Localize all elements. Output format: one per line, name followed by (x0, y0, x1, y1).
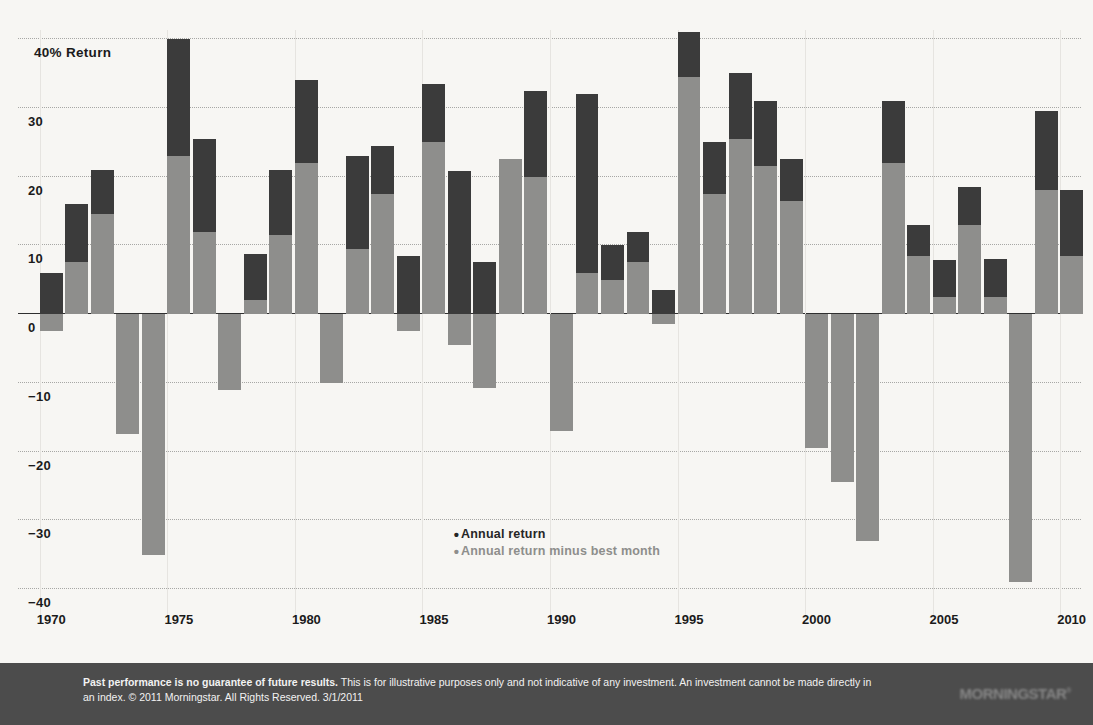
bar-annual-return-minus-best-month (1009, 314, 1032, 582)
bar-annual-return (652, 290, 675, 314)
bar-annual-return-minus-best-month (473, 314, 496, 388)
bar-annual-return (397, 256, 420, 314)
legend-marker-dot-icon: • (452, 546, 461, 558)
x-tick-label: 1995 (675, 612, 704, 627)
bar-annual-return-minus-best-month (448, 314, 471, 345)
bar-column (780, 0, 803, 640)
bar-annual-return-minus-best-month (142, 314, 165, 555)
legend-marker-dot-icon: • (452, 529, 461, 541)
bar-annual-return-minus-best-month (371, 194, 394, 314)
morningstar-logo: MORNINGSTAR® (960, 685, 1071, 702)
x-tick-label: 1990 (547, 612, 576, 627)
bar-annual-return (40, 273, 63, 314)
bar-annual-return-minus-best-month (754, 166, 777, 314)
bar-column (729, 0, 752, 640)
bar-annual-return-minus-best-month (958, 225, 981, 314)
bar-annual-return-minus-best-month (984, 297, 1007, 314)
bar-column (1035, 0, 1058, 640)
bar-column (91, 0, 114, 640)
bar-annual-return-minus-best-month (397, 314, 420, 331)
bar-annual-return-minus-best-month (729, 139, 752, 314)
bar-column (116, 0, 139, 640)
bar-column (678, 0, 701, 640)
bar-column (856, 0, 879, 640)
bar-annual-return-minus-best-month (499, 159, 522, 314)
bar-annual-return-minus-best-month (550, 314, 573, 431)
bar-column (218, 0, 241, 640)
chart-legend: •Annual return •Annual return minus best… (452, 526, 660, 560)
bar-annual-return-minus-best-month (856, 314, 879, 541)
legend-label: Annual return minus best month (461, 544, 660, 558)
bar-column (1009, 0, 1032, 640)
disclaimer-text: Past performance is no guarantee of futu… (83, 675, 873, 705)
bar-column (958, 0, 981, 640)
bar-annual-return-minus-best-month (422, 142, 445, 314)
bar-annual-return-minus-best-month (218, 314, 241, 390)
bar-annual-return-minus-best-month (91, 214, 114, 314)
bar-column (933, 0, 956, 640)
legend-item-annual-return-minus-best-month: •Annual return minus best month (452, 543, 660, 560)
bar-annual-return (448, 171, 471, 314)
bar-annual-return-minus-best-month (244, 300, 267, 314)
bar-annual-return-minus-best-month (576, 273, 599, 314)
bar-column (703, 0, 726, 640)
bar-column (142, 0, 165, 640)
bar-annual-return-minus-best-month (831, 314, 854, 482)
bar-column (40, 0, 63, 640)
bar-column (882, 0, 905, 640)
bar-column (193, 0, 216, 640)
chart-figure: 40% Return3020100−10−20−30−40 1970197519… (0, 0, 1093, 725)
x-tick-label: 1980 (292, 612, 321, 627)
bar-annual-return-minus-best-month (703, 194, 726, 314)
bar-column (422, 0, 445, 640)
bar-column (65, 0, 88, 640)
bar-annual-return-minus-best-month (40, 314, 63, 331)
x-tick-label: 1975 (164, 612, 193, 627)
morningstar-wordmark: MORNINGSTAR (960, 685, 1067, 702)
bar-annual-return-minus-best-month (601, 280, 624, 314)
disclaimer-bold-lead: Past performance is no guarantee of futu… (83, 676, 338, 688)
bar-annual-return-minus-best-month (627, 262, 650, 314)
bar-annual-return-minus-best-month (805, 314, 828, 448)
bar-annual-return-minus-best-month (167, 156, 190, 314)
legend-label: Annual return (461, 527, 546, 541)
x-tick-label: 2000 (802, 612, 831, 627)
legend-item-annual-return: •Annual return (452, 526, 660, 543)
registered-trademark-icon: ® (1066, 687, 1071, 694)
x-tick-label: 2010 (1057, 612, 1086, 627)
bar-column (371, 0, 394, 640)
bar-column (295, 0, 318, 640)
bar-annual-return-minus-best-month (1060, 256, 1083, 314)
bar-column (244, 0, 267, 640)
bar-column (167, 0, 190, 640)
bar-annual-return-minus-best-month (116, 314, 139, 434)
bar-annual-return-minus-best-month (933, 297, 956, 314)
bar-column (346, 0, 369, 640)
bar-column (805, 0, 828, 640)
bar-annual-return-minus-best-month (882, 163, 905, 314)
bar-column (320, 0, 343, 640)
footer-disclaimer-bar: Past performance is no guarantee of futu… (0, 663, 1093, 725)
bar-column (754, 0, 777, 640)
bar-annual-return-minus-best-month (652, 314, 675, 324)
bar-annual-return-minus-best-month (1035, 190, 1058, 314)
bar-annual-return-minus-best-month (320, 314, 343, 383)
bar-annual-return-minus-best-month (193, 232, 216, 315)
bar-column (1060, 0, 1083, 640)
bar-annual-return-minus-best-month (678, 77, 701, 314)
bar-column (984, 0, 1007, 640)
bar-column (269, 0, 292, 640)
bar-annual-return (473, 262, 496, 314)
y-tick-label: 0 (28, 320, 36, 335)
bar-annual-return-minus-best-month (295, 163, 318, 314)
bar-annual-return-minus-best-month (346, 249, 369, 314)
bar-annual-return-minus-best-month (907, 256, 930, 314)
bar-column (831, 0, 854, 640)
x-tick-label: 2005 (930, 612, 959, 627)
bar-annual-return-minus-best-month (269, 235, 292, 314)
bar-column (907, 0, 930, 640)
x-tick-label: 1970 (37, 612, 66, 627)
bar-column (397, 0, 420, 640)
bar-annual-return-minus-best-month (65, 262, 88, 314)
x-tick-label: 1985 (419, 612, 448, 627)
